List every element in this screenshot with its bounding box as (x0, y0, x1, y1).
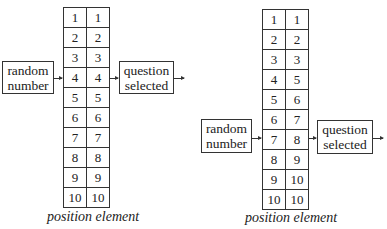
element-cell: 6 (87, 108, 110, 128)
position-cell: 6 (64, 108, 87, 128)
arrow-right-icon (110, 78, 118, 79)
box-label-line1: question (120, 63, 173, 78)
element-cell: 8 (286, 130, 309, 150)
table-row: 99 (64, 168, 110, 188)
position-cell: 4 (64, 68, 87, 88)
question-selected-box-left: question selected (119, 61, 174, 94)
arrow-right-icon (309, 138, 316, 139)
box-label-line2: selected (120, 78, 173, 93)
element-cell: 3 (286, 50, 309, 70)
element-cell: 5 (286, 70, 309, 90)
table-caption-right: position element (245, 210, 337, 226)
element-cell: 7 (87, 128, 110, 148)
position-cell: 2 (263, 30, 286, 50)
position-cell: 10 (64, 188, 87, 208)
table-row: 67 (263, 110, 309, 130)
element-cell: 6 (286, 90, 309, 110)
element-cell: 4 (87, 68, 110, 88)
table-row: 78 (263, 130, 309, 150)
element-cell: 2 (286, 30, 309, 50)
table-row: 22 (263, 30, 309, 50)
element-cell: 10 (286, 170, 309, 190)
table-row: 33 (64, 48, 110, 68)
element-cell: 9 (286, 150, 309, 170)
element-cell: 10 (87, 188, 110, 208)
table-row: 1010 (64, 188, 110, 208)
table-row: 11 (263, 10, 309, 30)
position-element-table-right: 11 22 33 45 56 67 78 89 910 1010 (262, 9, 309, 210)
table-row: 77 (64, 128, 110, 148)
position-cell: 8 (64, 148, 87, 168)
element-cell: 1 (286, 10, 309, 30)
position-cell: 9 (263, 170, 286, 190)
position-element-table-left: 11 22 33 44 55 66 77 88 99 1010 (63, 7, 110, 208)
position-cell: 10 (263, 190, 286, 210)
arrow-right-icon (174, 78, 184, 79)
table-row: 55 (64, 88, 110, 108)
arrow-right-icon (252, 138, 261, 139)
position-cell: 8 (263, 150, 286, 170)
table-row: 88 (64, 148, 110, 168)
table-row: 11 (64, 8, 110, 28)
element-cell: 5 (87, 88, 110, 108)
table-row: 56 (263, 90, 309, 110)
element-cell: 1 (87, 8, 110, 28)
random-number-box-right: random number (201, 119, 252, 153)
position-cell: 3 (263, 50, 286, 70)
table-row: 910 (263, 170, 309, 190)
table-row: 89 (263, 150, 309, 170)
table-row: 66 (64, 108, 110, 128)
table-row: 44 (64, 68, 110, 88)
box-label-line2: number (202, 136, 251, 151)
element-cell: 10 (286, 190, 309, 210)
table-row: 22 (64, 28, 110, 48)
element-cell: 2 (87, 28, 110, 48)
position-cell: 9 (64, 168, 87, 188)
arrow-right-icon (373, 138, 383, 139)
position-cell: 5 (64, 88, 87, 108)
position-cell: 2 (64, 28, 87, 48)
position-cell: 1 (263, 10, 286, 30)
position-cell: 5 (263, 90, 286, 110)
table-caption-left: position element (47, 209, 139, 225)
box-label-line2: selected (318, 137, 372, 152)
arrow-right-icon (54, 78, 62, 79)
position-cell: 1 (64, 8, 87, 28)
table-row: 45 (263, 70, 309, 90)
element-cell: 8 (87, 148, 110, 168)
box-label-line1: random (202, 121, 251, 136)
box-label-line1: random (3, 63, 53, 78)
position-cell: 7 (64, 128, 87, 148)
position-cell: 7 (263, 130, 286, 150)
random-number-box-left: random number (2, 61, 54, 94)
table-row: 1010 (263, 190, 309, 210)
table-row: 33 (263, 50, 309, 70)
position-cell: 3 (64, 48, 87, 68)
position-cell: 4 (263, 70, 286, 90)
box-label-line1: question (318, 122, 372, 137)
question-selected-box-right: question selected (317, 120, 373, 154)
element-cell: 9 (87, 168, 110, 188)
box-label-line2: number (3, 78, 53, 93)
element-cell: 3 (87, 48, 110, 68)
position-cell: 6 (263, 110, 286, 130)
element-cell: 7 (286, 110, 309, 130)
